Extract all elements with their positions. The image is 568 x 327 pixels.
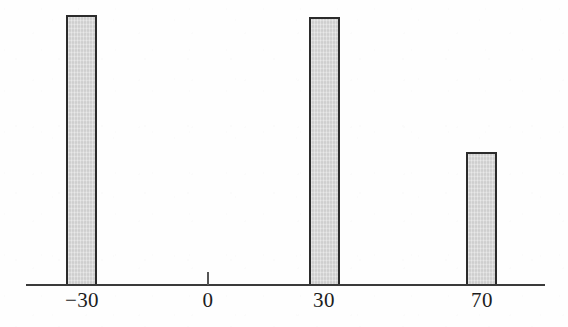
x-axis-line: [26, 284, 545, 286]
bar-chart-figure: −30 0 30 70: [0, 0, 568, 327]
x-tick-label-0: 0: [203, 288, 214, 312]
x-tick-label-30: 30: [313, 288, 335, 312]
x-axis-tick-0: [207, 272, 209, 285]
bar-30: [309, 17, 340, 285]
bar-minus30: [66, 15, 97, 285]
x-tick-label-70: 70: [471, 288, 493, 312]
plot-area: −30 0 30 70: [0, 0, 568, 327]
bar-70: [466, 152, 497, 285]
x-tick-label-minus30: −30: [65, 288, 99, 312]
